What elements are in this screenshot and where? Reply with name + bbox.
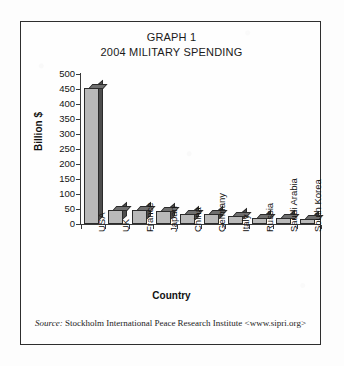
y-tick-label: 450 bbox=[43, 84, 75, 93]
y-tick-mark bbox=[76, 74, 81, 75]
x-category-label: Germany bbox=[217, 193, 227, 232]
y-tick-label: 50 bbox=[43, 204, 75, 213]
x-category-label: China bbox=[193, 207, 203, 232]
x-category-label: South Korea bbox=[313, 179, 323, 232]
source-label: Source: bbox=[35, 318, 63, 328]
y-tick-label: 150 bbox=[43, 174, 75, 183]
y-tick-mark bbox=[76, 194, 81, 195]
y-tick-mark bbox=[76, 119, 81, 120]
x-category-label: USA bbox=[97, 212, 107, 232]
source-note: Source: Stockholm International Peace Re… bbox=[35, 318, 315, 328]
x-category-label: UK bbox=[121, 219, 131, 232]
y-tick-label: 100 bbox=[43, 189, 75, 198]
x-category-label: France bbox=[145, 202, 155, 232]
y-tick-label: 350 bbox=[43, 114, 75, 123]
y-tick-label: 300 bbox=[43, 129, 75, 138]
y-tick-mark bbox=[76, 104, 81, 105]
x-category-label: Russia bbox=[265, 203, 275, 232]
y-tick-mark bbox=[76, 164, 81, 165]
figure-frame: GRAPH 1 2004 MILITARY SPENDING Billion $… bbox=[20, 21, 321, 345]
source-text: Stockholm International Peace Research I… bbox=[65, 318, 306, 328]
y-tick-label: 250 bbox=[43, 144, 75, 153]
y-tick-mark bbox=[76, 179, 81, 180]
y-tick-mark bbox=[76, 209, 81, 210]
y-tick-mark bbox=[76, 149, 81, 150]
y-tick-label: 0 bbox=[43, 219, 75, 228]
y-tick-mark bbox=[76, 134, 81, 135]
y-tick-label: 200 bbox=[43, 159, 75, 168]
y-axis-title: Billion $ bbox=[33, 97, 44, 167]
x-category-label: Italy bbox=[241, 215, 251, 232]
y-tick-label: 400 bbox=[43, 99, 75, 108]
x-category-label: Saudi Arabia bbox=[289, 178, 299, 232]
x-tick-mark bbox=[81, 225, 82, 229]
bar-front-face bbox=[84, 88, 99, 225]
bar bbox=[84, 88, 99, 225]
y-tick-label: 500 bbox=[43, 69, 75, 78]
x-axis-title: Country bbox=[21, 290, 322, 301]
bar-chart-plot: Billion $ 050100150200250300350400450500… bbox=[21, 22, 322, 346]
x-category-label: Japan bbox=[169, 206, 179, 232]
screenshot-canvas: GRAPH 1 2004 MILITARY SPENDING Billion $… bbox=[0, 0, 344, 366]
y-tick-mark bbox=[76, 89, 81, 90]
